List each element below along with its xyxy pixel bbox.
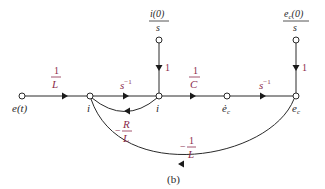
gain-ic-i: 1 (165, 62, 170, 73)
gain-ic-ec: 1 (302, 62, 307, 73)
label-input: e(t) (12, 102, 28, 115)
label-i-dot: i (87, 102, 90, 114)
arrow-ic-ec (293, 65, 300, 71)
gain-integrator1: s−1 (120, 78, 132, 91)
ic-ec-denominator: s (293, 22, 297, 33)
gain-feedback-R-sign: − (115, 125, 121, 136)
label-i: i (156, 102, 159, 114)
node-ec (293, 93, 299, 99)
gain-feedback-R-den: L (122, 132, 129, 144)
node-ec-dot (224, 93, 230, 99)
gain-feedback-ec-sign: − (180, 141, 186, 152)
figure-caption: (b) (167, 173, 180, 186)
edge-feedback-R (92, 98, 157, 112)
arrow-integrator1 (123, 93, 129, 100)
node-i (156, 93, 162, 99)
gain-feedback-ec-den: L (187, 148, 194, 160)
node-ic-i (156, 37, 162, 43)
gain-cap-num: 1 (193, 65, 198, 76)
signal-flow-graph: e(t) i i ėc ec i(0) s ec(0) s 1 L s−1 1 … (0, 0, 325, 189)
label-ec-dot: ėc (222, 102, 231, 116)
ic-ec-numerator: ec(0) (284, 8, 304, 21)
edge-feedback-ec (91, 99, 294, 155)
gain-input-den: L (51, 78, 58, 90)
gain-cap-den: C (190, 78, 198, 90)
arrow-ic-i (156, 65, 163, 71)
arrow-feedback-ec (178, 161, 184, 168)
node-input (19, 93, 25, 99)
node-i-dot (87, 93, 93, 99)
node-ic-ec (293, 37, 299, 43)
arrow-input (62, 93, 68, 100)
arrow-feedback-R (124, 108, 130, 115)
arrow-integrator2 (260, 93, 266, 100)
gain-integrator2: s−1 (259, 78, 271, 91)
gain-input-num: 1 (54, 65, 59, 76)
ic-i-denominator: s (156, 22, 160, 33)
arrow-capacitor (190, 93, 196, 100)
gain-feedback-ec-num: 1 (189, 135, 194, 146)
gain-feedback-R-num: R (122, 118, 130, 130)
label-ec: ec (292, 102, 301, 116)
ic-i-numerator: i(0) (150, 8, 165, 20)
